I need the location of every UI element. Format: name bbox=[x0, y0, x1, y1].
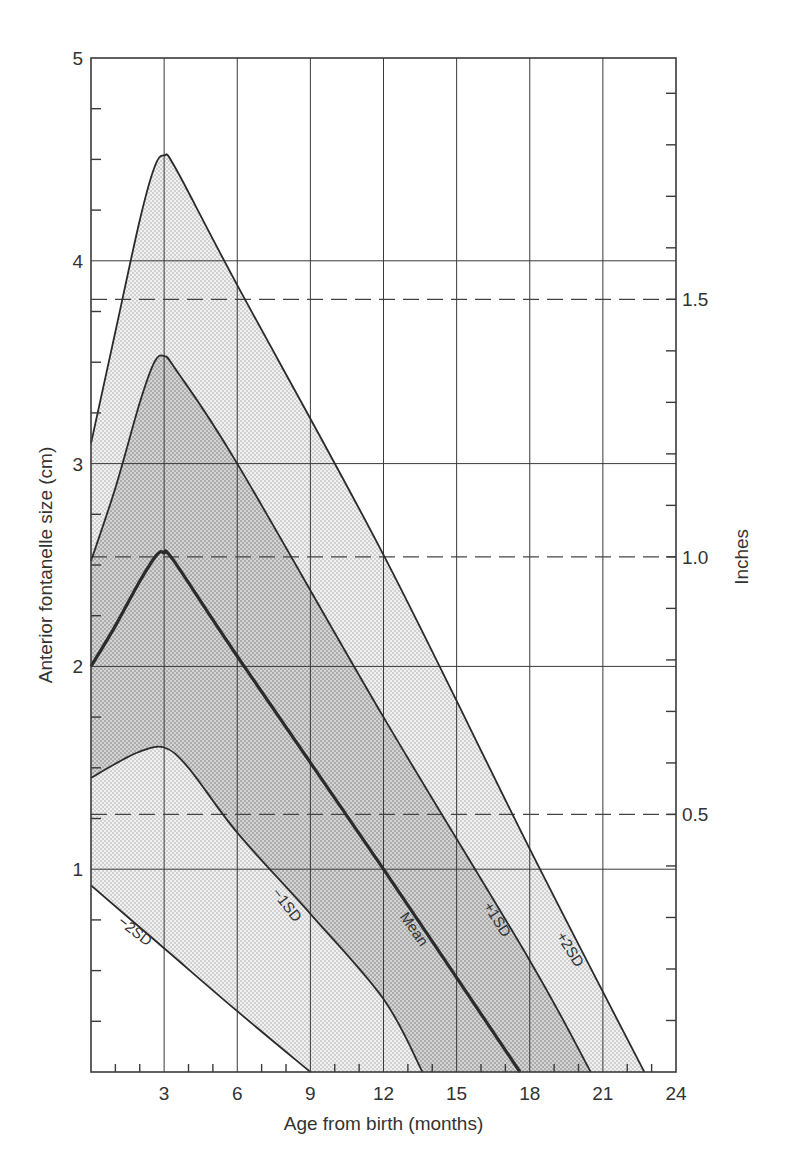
y2-tick-label: 1.0 bbox=[682, 547, 708, 568]
y-tick-label: 5 bbox=[72, 48, 83, 69]
x-tick-label: 12 bbox=[373, 1083, 394, 1104]
y-tick-label: 1 bbox=[72, 859, 83, 880]
x-tick-label: 15 bbox=[446, 1083, 467, 1104]
x-tick-label: 6 bbox=[232, 1083, 243, 1104]
x-axis-title: Age from birth (months) bbox=[284, 1113, 484, 1134]
x-tick-label: 9 bbox=[305, 1083, 316, 1104]
x-tick-label: 3 bbox=[159, 1083, 170, 1104]
y2-tick-label: 0.5 bbox=[682, 804, 708, 825]
y-axis-title: Anterior fontanelle size (cm) bbox=[35, 447, 56, 684]
y-tick-label: 3 bbox=[72, 454, 83, 475]
y2-axis-title: Inches bbox=[731, 529, 752, 585]
fontanelle-chart: 3691215182124543210.51.01.5Age from birt… bbox=[0, 0, 785, 1159]
x-tick-label: 18 bbox=[519, 1083, 540, 1104]
x-tick-label: 24 bbox=[665, 1083, 687, 1104]
y2-tick-label: 1.5 bbox=[682, 289, 708, 310]
x-tick-label: 21 bbox=[592, 1083, 613, 1104]
y-tick-label: 4 bbox=[72, 251, 83, 272]
y-tick-label: 2 bbox=[72, 656, 83, 677]
